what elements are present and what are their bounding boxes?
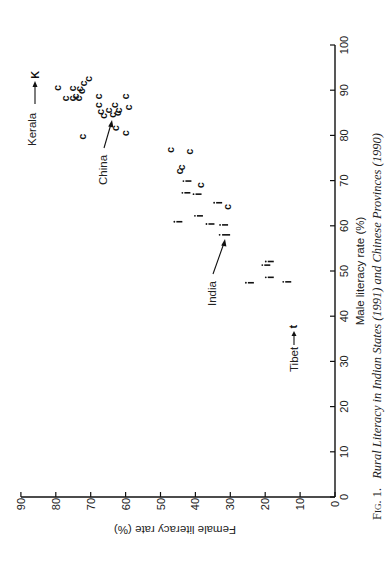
i-dot (219, 224, 221, 226)
china-province-point: c (72, 95, 84, 101)
i-dot (245, 282, 247, 284)
tibet-arrowhead-icon (292, 331, 297, 336)
female-tick-label: 10 (294, 498, 306, 510)
i-dot (219, 234, 221, 236)
china-province-point: c (164, 147, 176, 153)
male-tick-label: 90 (338, 84, 350, 96)
male-tick-label: 40 (338, 310, 350, 322)
china-label: China (97, 154, 109, 185)
female-tick-label: 70 (85, 498, 97, 510)
data-points: ccccccccccccccccccccccccccccccKt (29, 71, 300, 329)
tibet-label: Tibet (288, 346, 300, 372)
male-tick-label: 20 (338, 400, 350, 412)
literacy-scatter-figure: 0102030405060708090100 01020304050607080… (0, 0, 385, 565)
annotation-tibet: Tibet (288, 331, 300, 372)
i-dot (265, 276, 267, 278)
china-province-point: c (75, 88, 87, 94)
male-tick-label: 80 (338, 129, 350, 141)
male-axis-ticks: 0102030405060708090100 (330, 36, 350, 500)
female-tick-label: 50 (155, 498, 167, 510)
china-province-point: c (76, 134, 88, 140)
china-province-point: c (119, 93, 131, 99)
kerala-label: Kerala (26, 112, 38, 146)
i-dot (213, 202, 215, 204)
female-tick-label: 20 (259, 498, 271, 510)
kerala-arrowhead-icon (33, 81, 38, 87)
axes (21, 45, 335, 497)
i-dot (265, 261, 267, 263)
female-tick-label: 90 (15, 498, 27, 510)
annotation-india: India (206, 239, 226, 306)
india-arrowhead-icon (221, 239, 226, 247)
male-tick-label: 0 (338, 494, 350, 500)
i-dot (194, 215, 196, 217)
male-tick-label: 100 (338, 36, 350, 54)
female-tick-label: 40 (189, 498, 201, 510)
china-province-point: c (221, 204, 233, 210)
kerala-point: K (29, 71, 41, 79)
china-province-point: c (194, 182, 206, 188)
male-axis-title: Male literacy rate (%) (354, 217, 366, 326)
i-dot (261, 264, 263, 266)
female-axis-title: Female literacy rate (%) (114, 524, 236, 536)
i-dot (173, 221, 175, 223)
male-tick-label: 60 (338, 220, 350, 232)
china-province-point: c (119, 130, 131, 136)
caption-title: Rural Literacy in Indian States (1991) a… (370, 133, 384, 480)
china-province-point: c (108, 102, 120, 108)
india-label: India (206, 280, 218, 306)
tibet-point: t (287, 324, 299, 328)
caption-prefix: Fig. 1. (370, 488, 384, 520)
figure-caption: Fig. 1. Rural Literacy in Indian States … (370, 133, 384, 520)
i-dot (193, 193, 195, 195)
china-arrowhead-icon (108, 120, 113, 127)
female-axis-ticks: 0102030405060708090 (15, 492, 341, 510)
i-dot (181, 192, 183, 194)
china-province-point: c (51, 85, 63, 91)
china-province-point: c (92, 93, 104, 99)
i-dot (206, 223, 208, 225)
india-arrow (213, 243, 224, 274)
svg-text:Fig. 1. Rural Literacy i: Fig. 1. Rural Literacy in Indian States … (370, 133, 384, 520)
female-tick-label: 30 (224, 498, 236, 510)
china-province-point: c (173, 168, 185, 174)
china-province-point: c (82, 76, 94, 82)
male-tick-label: 10 (338, 446, 350, 458)
annotation-kerala: Kerala (26, 81, 38, 146)
china-province-point: c (122, 104, 134, 110)
china-average-point: c (106, 112, 118, 118)
china-arrow (104, 124, 111, 148)
male-tick-label: 30 (338, 355, 350, 367)
female-tick-label: 0 (329, 501, 341, 507)
china-province-point: c (92, 102, 104, 108)
male-tick-label: 50 (338, 265, 350, 277)
i-dot (183, 180, 185, 182)
female-tick-label: 80 (50, 498, 62, 510)
china-province-point: c (183, 149, 195, 155)
male-tick-label: 70 (338, 174, 350, 186)
female-tick-label: 60 (120, 498, 132, 510)
i-dot (282, 281, 284, 283)
